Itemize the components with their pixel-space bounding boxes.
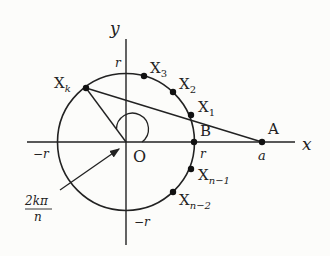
diagram-canvas: y x O r r a −r −r A B X1 X2 X3 Xk Xn−1 X… — [0, 0, 330, 256]
point-x3 — [141, 73, 147, 79]
point-xn-1 — [188, 166, 194, 172]
point-b — [191, 139, 197, 145]
point-xn-2 — [170, 189, 176, 195]
point-xk — [83, 85, 89, 91]
tick-r-top: r — [115, 56, 122, 70]
x-axis-label: x — [302, 134, 312, 154]
label-x2: X2 — [179, 75, 196, 95]
tick-r-right: r — [200, 147, 207, 161]
label-b: B — [200, 122, 211, 140]
label-xn-2: Xn−2 — [179, 191, 211, 211]
line-xk-to-a — [86, 88, 262, 142]
angle-label-denominator: n — [34, 210, 42, 224]
y-axis-label: y — [109, 18, 120, 38]
angle-arc — [117, 113, 149, 142]
label-x1: X1 — [198, 98, 215, 118]
origin-label: O — [133, 147, 146, 166]
angle-label-numerator: 2kπ — [24, 194, 49, 208]
label-a: A — [267, 120, 279, 138]
label-x3: X3 — [150, 59, 167, 79]
point-x2 — [170, 89, 176, 95]
angle-arrow — [60, 149, 119, 190]
tick-neg-r-left: −r — [33, 147, 50, 161]
tick-neg-r-bottom: −r — [134, 215, 151, 229]
tick-a: a — [258, 148, 266, 163]
label-xn-1: Xn−1 — [198, 166, 230, 186]
diagram-svg: y x O r r a −r −r A B X1 X2 X3 Xk Xn−1 X… — [0, 0, 330, 256]
radius-o-to-xk — [86, 88, 126, 142]
label-xk: Xk — [54, 74, 71, 94]
point-x1 — [188, 112, 194, 118]
point-a — [259, 139, 265, 145]
